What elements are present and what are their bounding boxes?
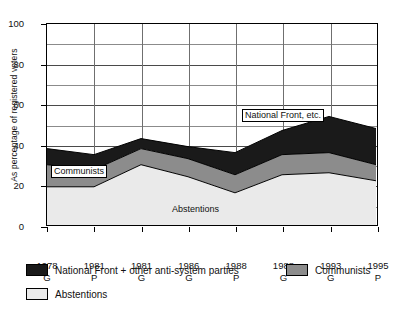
figure: As percentage of registered voters Commu…	[0, 0, 395, 311]
legend-item-abstentions: Abstentions	[26, 288, 107, 300]
y-tick-label-20: 20	[0, 180, 24, 191]
x-tick-2	[142, 227, 143, 232]
y-tick-label-80: 80	[0, 59, 24, 70]
y-tick-40	[41, 146, 47, 147]
stacked-area-svg	[47, 24, 377, 225]
y-tick-label-60: 60	[0, 99, 24, 110]
callout-national-front: National Front, etc.	[242, 109, 324, 122]
callout-abstentions: Abstentions	[170, 204, 221, 215]
x-tick-0	[47, 227, 48, 232]
callout-communists: Communists	[51, 165, 107, 178]
legend-item-communists: Communists	[286, 264, 371, 276]
legend-label-abstentions: Abstentions	[55, 289, 107, 300]
x-tick-1	[94, 227, 95, 232]
plot-area: Communists Abstentions National Front, e…	[46, 23, 378, 226]
y-tick-label-0: 0	[0, 221, 24, 232]
legend-swatch-national-front	[26, 264, 48, 276]
area-bands	[47, 24, 377, 225]
legend-swatch-abstentions	[26, 288, 48, 300]
x-tick-5	[283, 227, 284, 232]
legend-item-national-front: National Front + other anti-system parti…	[26, 264, 239, 276]
legend-label-national-front: National Front + other anti-system parti…	[55, 265, 239, 276]
legend-label-communists: Communists	[315, 265, 371, 276]
x-tick-7	[378, 227, 379, 232]
y-tick-100	[41, 24, 47, 25]
y-tick-60	[41, 105, 47, 106]
legend: National Front + other anti-system parti…	[0, 258, 395, 311]
x-tick-6	[331, 227, 332, 232]
y-tick-80	[41, 65, 47, 66]
y-tick-label-40: 40	[0, 140, 24, 151]
y-tick-20	[41, 186, 47, 187]
x-tick-4	[236, 227, 237, 232]
y-tick-label-100: 100	[0, 18, 24, 29]
x-tick-3	[189, 227, 190, 232]
legend-swatch-communists	[286, 264, 308, 276]
